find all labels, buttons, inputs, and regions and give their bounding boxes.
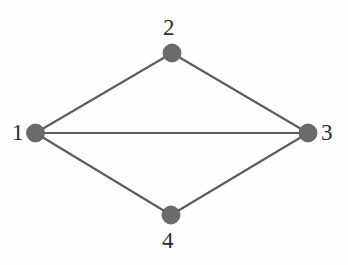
graph-node-3[interactable] [299,124,317,142]
node-label-4: 4 [162,229,174,252]
graph-edge-1-4 [36,133,172,215]
graph-edge-2-3 [172,53,308,133]
graph-edge-1-2 [36,53,173,133]
graph-node-1[interactable] [27,124,45,142]
graph-figure: 1234 [0,0,348,265]
graph-node-4[interactable] [162,206,180,224]
edge-layer [36,53,309,215]
node-label-2: 2 [163,16,175,39]
graph-edge-4-3 [171,133,308,215]
node-label-1: 1 [12,121,24,144]
graph-node-2[interactable] [163,44,181,62]
node-label-3: 3 [321,121,333,144]
